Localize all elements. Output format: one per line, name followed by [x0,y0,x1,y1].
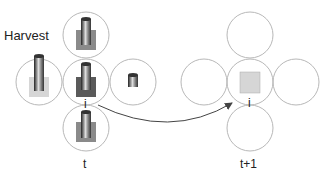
harvest-label: Harvest [4,28,49,43]
time-label-t-plus-1: t+1 [240,157,257,171]
diagram-canvas [0,0,336,179]
time-label-t: t [83,157,86,171]
cell-index-left: i [84,97,87,111]
transition-arrow [98,103,232,122]
cell-index-right: i [248,96,251,110]
grid-time-t-plus-1 [181,12,319,151]
